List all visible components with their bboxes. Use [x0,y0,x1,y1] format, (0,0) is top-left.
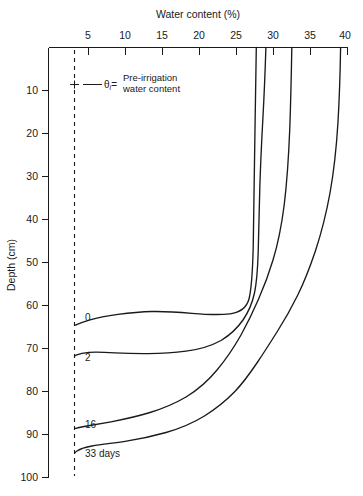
curve-labels: 0 2 16 33 days [85,312,120,459]
depth-axis [42,48,49,478]
x-tick-label-35: 35 [304,29,316,41]
pre-irrigation-annotation: θi= Pre-irrigation water content [70,72,180,94]
x-tick-labels: 5 10 15 20 25 30 35 40 [85,29,351,41]
y-tick-label-80: 80 [26,385,38,397]
annotation-leader-line [70,81,102,89]
y-axis-title: Depth (cm) [5,239,17,291]
water-content-depth-figure: Water content (%) 5 10 15 20 25 30 35 40 [0,0,363,496]
theta-symbol: θi= [104,79,117,91]
curve-label-33-days: 33 days [85,448,120,459]
series-curves [75,48,341,454]
y-tick-label-30: 30 [26,170,38,182]
x-axis-title: Water content (%) [156,8,240,20]
annotation-line-1: Pre-irrigation [123,72,177,83]
y-tick-labels: 10 20 30 40 50 60 70 80 90 100 [20,84,38,483]
top-axis [49,48,348,55]
y-tick-label-100: 100 [20,471,38,483]
y-tick-label-50: 50 [26,256,38,268]
x-tick-label-25: 25 [230,29,242,41]
x-tick-label-10: 10 [119,29,131,41]
curve-series-33 [75,48,341,454]
theta-equals: = [111,79,117,90]
x-tick-label-5: 5 [85,29,91,41]
y-tick-label-10: 10 [26,84,38,96]
x-tick-label-40: 40 [339,29,351,41]
y-tick-label-40: 40 [26,213,38,225]
y-tick-label-70: 70 [26,342,38,354]
curve-label-0: 0 [85,312,91,323]
y-tick-label-90: 90 [26,428,38,440]
y-tick-label-60: 60 [26,299,38,311]
x-tick-label-20: 20 [193,29,205,41]
chart-svg: Water content (%) 5 10 15 20 25 30 35 40 [0,0,363,496]
curve-label-2: 2 [85,352,91,363]
x-tick-label-15: 15 [156,29,168,41]
y-tick-label-20: 20 [26,127,38,139]
x-tick-label-30: 30 [267,29,279,41]
curve-label-16: 16 [85,419,97,430]
annotation-line-2: water content [122,83,180,94]
